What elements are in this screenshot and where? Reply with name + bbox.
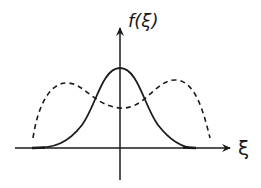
solid-curve-left-tail [32, 148, 45, 149]
dashed-bimodal-curve [33, 80, 210, 138]
solid-bell-curve [33, 68, 195, 148]
x-axis-label: ξ [238, 136, 249, 160]
solid-curve-right-tail [183, 148, 196, 149]
distribution-diagram: f(ξ) ξ [0, 0, 261, 188]
y-axis-label: f(ξ) [128, 10, 158, 31]
